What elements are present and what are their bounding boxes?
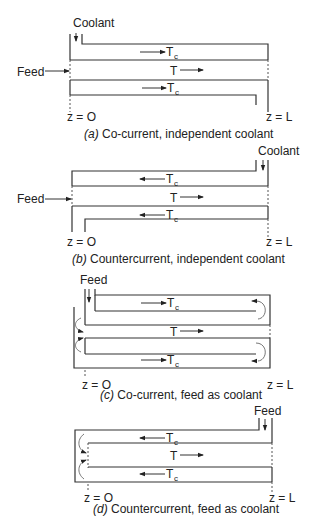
caption-d: (d) Countercurrent, feed as coolant [93,502,280,516]
svg-text:T: T [170,191,178,205]
z-end-label: z = L [266,235,293,249]
caption-a: (a) Co-current, independent coolant [84,127,274,141]
coolant-inlet-label: Coolant [258,144,300,158]
panel-a: Coolant Feed T c T T c z = O z = L (a) C… [17,16,293,141]
bottom-coolant-channel-wall [70,95,256,105]
svg-text:T: T [166,45,174,59]
svg-text:c: c [174,438,178,447]
panel-d: Feed T c T T c z = O z = L (d) Countercu… [75,404,296,516]
svg-text:T: T [170,325,178,339]
left-turn-arrow-icon [75,318,83,332]
reactor-configurations-figure: Coolant Feed T c T T c z = O z = L (a) C… [0,0,311,531]
svg-text:c: c [174,179,178,188]
svg-text:T: T [170,449,178,463]
z-start-label: z = O [67,110,96,124]
feed-label: Feed [17,192,44,206]
top-coolant-channel-wall [95,289,270,325]
caption-c: (c) Co-current, feed as coolant [100,388,263,402]
svg-text:c: c [175,88,179,97]
svg-text:T: T [170,64,178,78]
svg-text:c: c [174,474,178,483]
left-turn-arrow-icon [79,460,86,479]
z-end-label: z = L [266,110,293,124]
svg-text:c: c [175,360,179,369]
right-turn-arrow-icon [256,301,265,319]
svg-text:c: c [175,303,179,312]
svg-text:T: T [166,467,174,481]
svg-text:T: T [166,208,174,222]
svg-text:T: T [167,296,175,310]
feed-label: Feed [17,65,44,79]
svg-text:c: c [174,215,178,224]
right-turn-arrow-icon [256,343,265,361]
left-turn-arrow-icon [75,338,83,352]
feed-inlet-label: Feed [254,404,281,418]
panel-c: Feed T c T T c z = O z = L [74,273,294,402]
svg-text:T: T [167,81,175,95]
coolant-inlet-label: Coolant [73,16,115,30]
z-start-label: z = O [67,235,96,249]
svg-text:T: T [166,172,174,186]
panel-b: Coolant Feed T c T T c z = O z = L (b) C… [17,144,300,266]
z-end-label: z = L [267,378,294,392]
svg-text:T: T [166,431,174,445]
top-coolant-channel-wall [72,160,256,186]
svg-text:T: T [167,353,175,367]
left-turn-arrow-icon [79,434,86,453]
feed-inlet-label: Feed [80,273,107,287]
svg-text:c: c [174,52,178,61]
caption-b: (b) Countercurrent, independent coolant [72,252,285,266]
